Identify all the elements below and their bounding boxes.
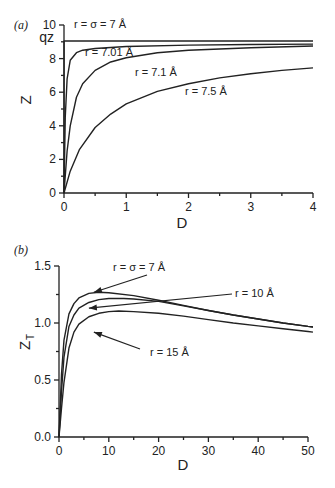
panel-a-x-tick-label: 2 (185, 200, 192, 214)
panel-a-qz-label: qz (39, 29, 54, 45)
panel-a-x-tick-label: 3 (247, 200, 254, 214)
panel-a-x-tick-label: 0 (61, 200, 68, 214)
panel-b-x-tick-label: 50 (301, 444, 315, 458)
panel-a-y-tick-label: 0 (49, 186, 56, 200)
panel-b-x-tick-label: 10 (102, 444, 116, 458)
panel-b-y-axis-label-main: Z (16, 341, 33, 350)
panel-b-x-tick-label: 40 (252, 444, 266, 458)
panel-b-curves (59, 292, 313, 437)
panel-b-y-tick-label: 0.5 (34, 373, 51, 387)
panel-a-curves (64, 41, 313, 193)
annotation-a-r7: r = σ = 7 Å (74, 18, 127, 30)
panel-b-y-axis-label: Z T (16, 334, 36, 350)
panel-b-label: (b) (14, 243, 28, 257)
annotation-arrow (89, 294, 232, 308)
annotation-b-r15: r = 15 Å (150, 346, 189, 358)
annotation-arrow (94, 275, 147, 292)
panel-a-label: (a) (14, 18, 28, 32)
panel-a-y-tick-label: 4 (49, 119, 56, 133)
panel-a-y-axis-label: Z (17, 95, 34, 104)
panel-b-y-axis-label-sub: T (25, 334, 36, 340)
panel-a-x-tick-label: 4 (310, 200, 317, 214)
panel-a-series-2 (64, 46, 313, 193)
annotation-b-r10: r = 10 Å (235, 287, 274, 299)
panel-b: (b) 010203040500.00.51.01.5 D Z T r = σ … (14, 243, 315, 473)
panel-b-y-tick-label: 0.0 (34, 430, 51, 444)
annotation-a-r75: r = 7.5 Å (185, 85, 228, 97)
panel-b-series-2 (59, 311, 313, 437)
annotation-b-r7: r = σ = 7 Å (113, 261, 166, 273)
arrowhead (89, 304, 97, 310)
panel-b-x-tick-label: 20 (152, 444, 166, 458)
panel-b-x-tick-label: 30 (202, 444, 216, 458)
panel-a: (a) 012340246810qz D Z r = σ = 7 Å r = 7… (14, 18, 317, 231)
panel-a-y-tick-label: 2 (49, 152, 56, 166)
arrowhead (94, 332, 103, 338)
panel-a-x-axis-label: D (177, 214, 188, 231)
panel-a-y-tick-label: 8 (49, 52, 56, 66)
annotation-a-r71: r = 7.1 Å (135, 66, 178, 78)
panel-a-series-0 (64, 41, 313, 193)
panel-b-y-tick-label: 1.0 (34, 316, 51, 330)
panel-b-x-tick-label: 0 (56, 444, 63, 458)
panel-b-series-1 (59, 298, 313, 437)
panel-b-y-tick-label: 1.5 (34, 259, 51, 273)
panel-a-x-tick-label: 1 (123, 200, 130, 214)
arrowhead (94, 287, 103, 293)
panel-a-y-tick-label: 6 (49, 85, 56, 99)
figure: (a) 012340246810qz D Z r = σ = 7 Å r = 7… (0, 0, 335, 488)
panel-b-x-axis-label: D (178, 456, 189, 473)
annotation-a-r701: r = 7.01 Å (85, 46, 134, 58)
